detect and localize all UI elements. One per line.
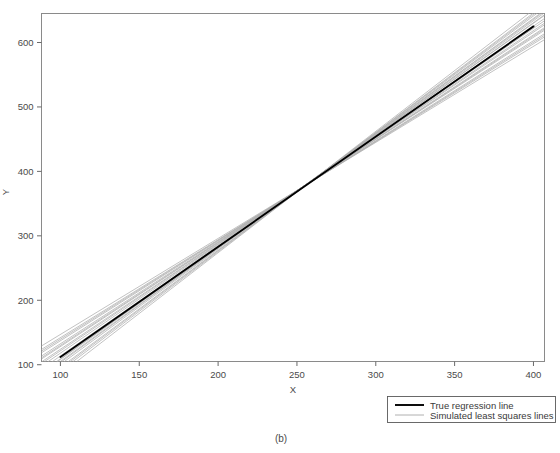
y-axis-tick-label: 600: [18, 37, 34, 48]
y-axis-tick-label: 400: [18, 166, 34, 177]
x-axis-tick-label: 200: [210, 369, 226, 380]
regression-line-chart: 100150200250300350400 100200300400500600…: [0, 0, 560, 453]
y-axis-tick-label: 300: [18, 230, 34, 241]
x-axis-title: X: [290, 384, 297, 395]
chart-legend: True regression line Simulated least squ…: [388, 397, 556, 423]
figure-caption: (b): [275, 433, 287, 444]
x-axis-tick-label: 250: [289, 369, 305, 380]
figure-panel: 100150200250300350400 100200300400500600…: [0, 0, 560, 453]
x-axis-tick-label: 400: [526, 369, 542, 380]
legend-label-simulated-least-squares-lines: Simulated least squares lines: [430, 410, 554, 421]
x-axis-tick-label: 150: [131, 369, 147, 380]
x-axis-tick-label: 350: [447, 369, 463, 380]
y-axis-tick-label: 200: [18, 295, 34, 306]
y-axis-title: Y: [0, 188, 11, 195]
x-axis-tick-label: 100: [52, 369, 68, 380]
y-axis-tick-label: 500: [18, 101, 34, 112]
y-axis-tick-label: 100: [18, 359, 34, 370]
x-axis-tick-label: 300: [368, 369, 384, 380]
